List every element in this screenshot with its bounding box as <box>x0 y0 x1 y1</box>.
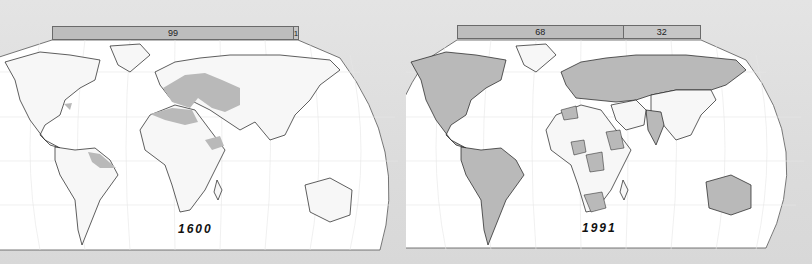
share-bar-1991: 68 32 <box>457 25 701 39</box>
share-segment-major: 99 <box>53 27 293 39</box>
share-segment-major: 68 <box>458 26 623 38</box>
map-panel-1600: 99 1 1600 <box>0 0 406 264</box>
year-label-1991: 1991 <box>582 221 617 235</box>
share-bar-1600: 99 1 <box>52 26 299 40</box>
map-panel-1991: 68 32 1991 <box>406 0 812 264</box>
share-segment-minor: 32 <box>623 26 700 38</box>
share-segment-minor: 1 <box>293 27 298 39</box>
year-label-1600: 1600 <box>178 222 213 236</box>
